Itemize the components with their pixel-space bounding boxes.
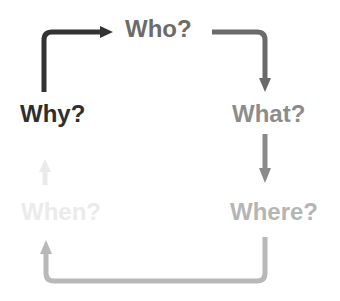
arrow-when-to-why [39, 159, 51, 185]
arrow-what-to-where [259, 134, 271, 183]
arrows-layer [0, 0, 340, 301]
node-where: Where? [230, 198, 318, 226]
five-w-cycle-diagram: Why? Who? What? Where? When? [0, 0, 340, 301]
arrow-who-to-what [212, 32, 271, 92]
node-who: Who? [125, 15, 192, 43]
node-what: What? [232, 100, 305, 128]
node-when: When? [21, 198, 101, 226]
arrow-where-to-when [40, 237, 265, 281]
arrow-why-to-who [44, 26, 113, 92]
node-why: Why? [20, 100, 85, 128]
